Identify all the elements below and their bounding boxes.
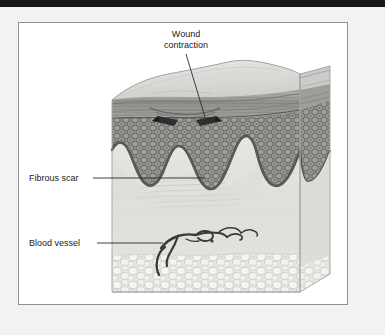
figure-stage: Woundcontraction Fibrous scar Blood vess… [0, 0, 385, 335]
label-wound-contraction: Woundcontraction [155, 29, 217, 50]
skin-top-surface [112, 60, 300, 100]
label-blood-vessel: Blood vessel [29, 238, 80, 249]
block-right-side-face [300, 66, 330, 292]
skin-block-illustration [0, 0, 385, 335]
label-fibrous-scar: Fibrous scar [29, 173, 79, 184]
label-wound-contraction-line2: contraction [164, 40, 208, 50]
label-wound-contraction-line1: Wound [172, 29, 200, 39]
